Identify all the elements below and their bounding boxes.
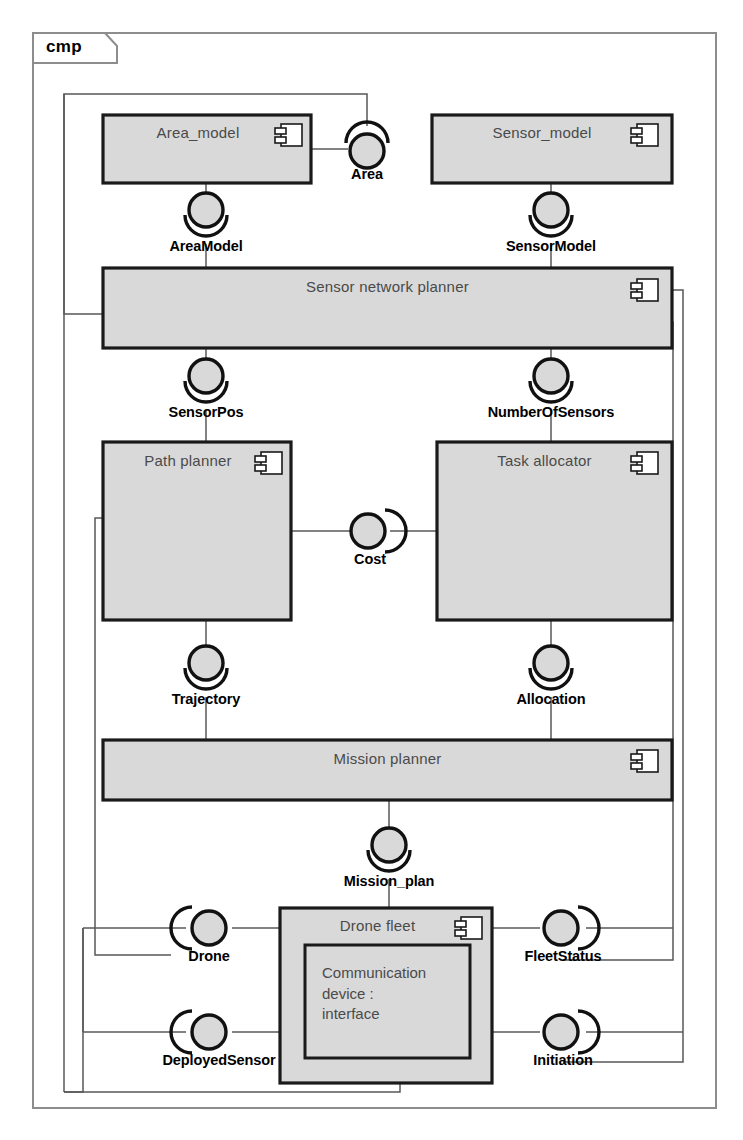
- interface-label-area: Area: [307, 166, 427, 182]
- interface-label-allocation: Allocation: [471, 691, 631, 707]
- inner-part-label: Communication device : interface: [322, 963, 467, 1025]
- interface-label-deployedsensor: DeployedSensor: [129, 1052, 309, 1068]
- interface-label-mission-plan: Mission_plan: [299, 873, 479, 889]
- interface-areamodel-symbol[interactable]: [185, 193, 227, 236]
- interface-trajectory-symbol[interactable]: [185, 646, 227, 689]
- interface-label-trajectory: Trajectory: [126, 691, 286, 707]
- diagram-canvas: .cbox{fill:#d9d9d9;stroke:#1a1a1a;stroke…: [0, 0, 743, 1140]
- component-title-task-allocator: Task allocator: [437, 452, 652, 469]
- interface-allocation-symbol[interactable]: [530, 646, 572, 689]
- component-mission-planner[interactable]: [103, 740, 672, 800]
- interface-label-numberofsensors: NumberOfSensors: [441, 404, 661, 420]
- interface-label-cost: Cost: [310, 551, 430, 567]
- interface-label-fleetstatus: FleetStatus: [483, 948, 643, 964]
- interface-numberofsensors-symbol[interactable]: [530, 359, 572, 402]
- component-boxes: [103, 115, 672, 1083]
- component-title-path-planner: Path planner: [103, 452, 273, 469]
- frame-tag-label: cmp: [46, 37, 82, 57]
- interface-area-symbol[interactable]: [346, 122, 388, 168]
- interface-mission-plan-symbol[interactable]: [368, 828, 410, 871]
- interface-sensormodel-symbol[interactable]: [530, 193, 572, 236]
- interface-label-sensormodel: SensorModel: [461, 238, 641, 254]
- interface-label-areamodel: AreaModel: [116, 238, 296, 254]
- component-title-sensor-network-planner: Sensor network planner: [103, 278, 672, 295]
- interface-sensorpos-symbol[interactable]: [185, 359, 227, 402]
- interface-label-initiation: Initiation: [493, 1052, 633, 1068]
- component-title-area-model: Area_model: [103, 124, 293, 141]
- interface-label-sensorpos: SensorPos: [116, 404, 296, 420]
- interface-label-drone: Drone: [149, 948, 269, 964]
- component-title-sensor-model: Sensor_model: [432, 124, 652, 141]
- component-title-mission-planner: Mission planner: [103, 750, 672, 767]
- component-title-drone-fleet: Drone fleet: [280, 917, 475, 934]
